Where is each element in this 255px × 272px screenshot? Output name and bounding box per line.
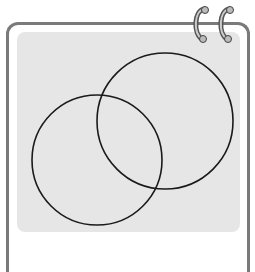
binder-ring-icon [190,3,214,45]
binder-ring-icon [215,3,239,45]
venn-circle-right [97,53,233,189]
caption-text [18,243,240,257]
